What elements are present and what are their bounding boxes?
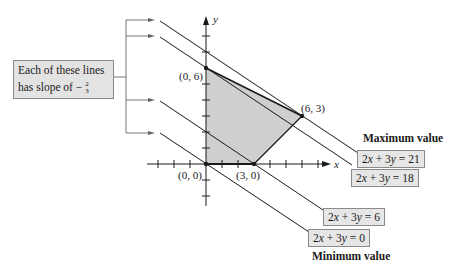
equation-label-6: 2x + 3y = 6 xyxy=(323,208,385,226)
vertex-6-3 xyxy=(300,114,304,118)
callout-line-2: has slope of − 23 xyxy=(18,79,110,96)
maximum-value-caption: Maximum value xyxy=(363,132,443,144)
equation-label-21: 2x + 3y = 21 xyxy=(357,150,425,168)
equation-label-18: 2x + 3y = 18 xyxy=(351,169,419,187)
vertex-0-6 xyxy=(204,66,208,70)
point-label-0-0: (0, 0) xyxy=(178,169,202,182)
x-axis-label: x xyxy=(333,158,339,170)
point-label-0-6: (0, 6) xyxy=(179,70,203,83)
point-label-3-0: (3, 0) xyxy=(236,169,260,182)
vertex-0-0 xyxy=(204,162,208,166)
feasible-region xyxy=(206,68,302,164)
vertex-3-0 xyxy=(252,162,256,166)
callout-line-1: Each of these lines xyxy=(18,62,110,79)
x-axis xyxy=(147,160,328,168)
equation-label-0: 2x + 3y = 0 xyxy=(308,229,370,247)
point-label-6-3: (6, 3) xyxy=(301,102,325,115)
slope-fraction: 23 xyxy=(85,81,89,95)
arrow-icons xyxy=(148,18,155,135)
y-axis-arrow-icon xyxy=(203,16,209,25)
x-axis-arrow-icon xyxy=(322,161,331,167)
y-axis-label: y xyxy=(212,13,218,25)
minimum-value-caption: Minimum value xyxy=(312,250,390,262)
slope-callout: Each of these lines has slope of − 23 xyxy=(13,60,114,99)
